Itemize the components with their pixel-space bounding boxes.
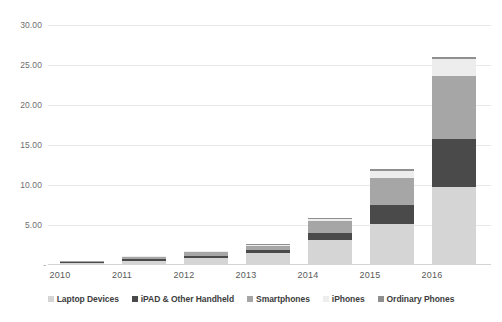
bar-2012[interactable] bbox=[184, 251, 228, 265]
legend-item-ipad-other-handheld[interactable]: iPAD & Other Handheld bbox=[132, 294, 234, 304]
gridline-30 bbox=[48, 25, 491, 26]
legend-swatch-icon-iphones bbox=[323, 296, 329, 302]
bar-segment-2016-ipad-other-handheld[interactable] bbox=[432, 139, 476, 187]
gridline-15 bbox=[48, 145, 491, 146]
bar-segment-2015-laptop-devices[interactable] bbox=[370, 224, 414, 265]
legend-item-ordinary-phones[interactable]: Ordinary Phones bbox=[378, 294, 455, 304]
bar-segment-2011-laptop-devices[interactable] bbox=[122, 261, 166, 265]
chart-legend: Laptop Devices iPAD & Other Handheld Sma… bbox=[0, 294, 502, 304]
legend-swatch-icon-laptop-devices bbox=[48, 296, 54, 302]
bar-2015[interactable] bbox=[370, 169, 414, 265]
y-axis-tick-20: 20.00 bbox=[0, 101, 42, 110]
gridline-25 bbox=[48, 65, 491, 66]
x-axis-tick-2014: 2014 bbox=[277, 270, 339, 280]
gridline-5 bbox=[48, 225, 491, 226]
x-axis-tick-2013: 2013 bbox=[215, 270, 277, 280]
bar-segment-2014-laptop-devices[interactable] bbox=[308, 240, 352, 265]
x-axis-tick-2015: 2015 bbox=[339, 270, 401, 280]
bar-segment-2010-laptop-devices[interactable] bbox=[60, 263, 104, 265]
bar-segment-2016-smartphones[interactable] bbox=[432, 76, 476, 139]
bar-2014[interactable] bbox=[308, 218, 352, 265]
legend-label-iphones: iPhones bbox=[332, 294, 365, 304]
bar-segment-2016-iphones[interactable] bbox=[432, 59, 476, 75]
stacked-bar-chart: 30.00 25.00 20.00 15.00 10.00 5.00 - 201… bbox=[0, 0, 502, 322]
bar-segment-2012-laptop-devices[interactable] bbox=[184, 258, 228, 265]
legend-swatch-icon-ordinary-phones bbox=[378, 296, 384, 302]
legend-swatch-icon-ipad-other-handheld bbox=[132, 296, 138, 302]
legend-label-ordinary-phones: Ordinary Phones bbox=[387, 294, 455, 304]
legend-label-ipad-other-handheld: iPAD & Other Handheld bbox=[141, 294, 234, 304]
bar-2010[interactable] bbox=[60, 261, 104, 265]
legend-swatch-icon-smartphones bbox=[247, 296, 253, 302]
legend-item-iphones[interactable]: iPhones bbox=[323, 294, 365, 304]
bar-2013[interactable] bbox=[246, 244, 290, 265]
legend-label-smartphones: Smartphones bbox=[256, 294, 310, 304]
legend-item-smartphones[interactable]: Smartphones bbox=[247, 294, 310, 304]
plot-area bbox=[48, 25, 491, 265]
y-axis-tick-5: 5.00 bbox=[0, 221, 42, 230]
bar-segment-2014-ipad-other-handheld[interactable] bbox=[308, 233, 352, 240]
x-axis-tick-2010: 2010 bbox=[29, 270, 91, 280]
bar-segment-2015-smartphones[interactable] bbox=[370, 178, 414, 205]
bar-segment-2015-iphones[interactable] bbox=[370, 171, 414, 178]
x-axis-tick-2016: 2016 bbox=[401, 270, 463, 280]
y-axis-tick-15: 15.00 bbox=[0, 141, 42, 150]
bar-segment-2014-smartphones[interactable] bbox=[308, 221, 352, 233]
y-axis-tick-30: 30.00 bbox=[0, 21, 42, 30]
y-axis-tick-25: 25.00 bbox=[0, 61, 42, 70]
bar-segment-2016-laptop-devices[interactable] bbox=[432, 187, 476, 265]
bar-2016[interactable] bbox=[432, 57, 476, 265]
legend-label-laptop-devices: Laptop Devices bbox=[57, 294, 119, 304]
bar-segment-2015-ipad-other-handheld[interactable] bbox=[370, 205, 414, 224]
bar-segment-2013-laptop-devices[interactable] bbox=[246, 253, 290, 265]
y-axis-tick-10: 10.00 bbox=[0, 181, 42, 190]
gridline-20 bbox=[48, 105, 491, 106]
legend-item-laptop-devices[interactable]: Laptop Devices bbox=[48, 294, 119, 304]
bar-2011[interactable] bbox=[122, 256, 166, 265]
x-axis-tick-2012: 2012 bbox=[153, 270, 215, 280]
y-axis-tick-0: - bbox=[38, 261, 46, 270]
x-axis-tick-2011: 2011 bbox=[91, 270, 153, 280]
gridline-10 bbox=[48, 185, 491, 186]
